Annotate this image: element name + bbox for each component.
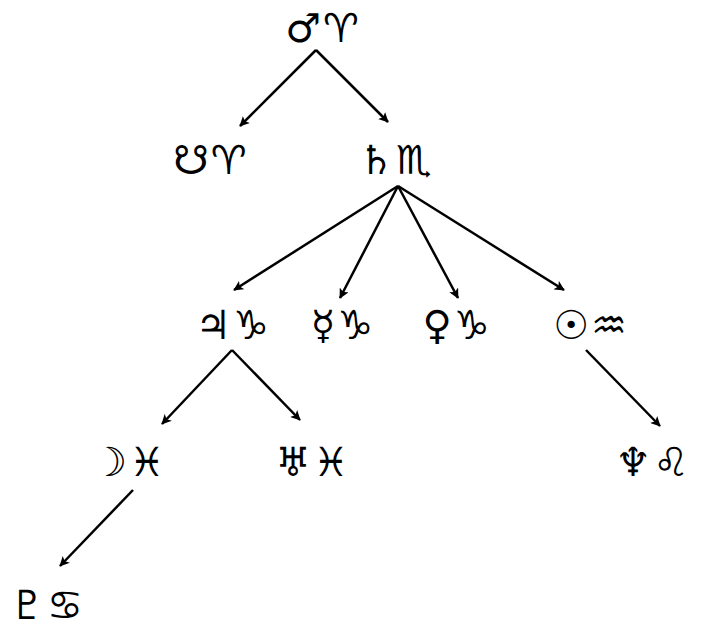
aries-icon: ♈︎ bbox=[323, 8, 359, 48]
tree-node-saturn-scorpio: ♄︎ ♏︎ bbox=[358, 140, 432, 180]
tree-node-node-aries: ☋︎ ♈︎ bbox=[173, 140, 246, 180]
aquarius-icon: ♒︎ bbox=[591, 305, 627, 345]
tree-node-moon-pisces: ☽︎ ♓︎ bbox=[91, 442, 165, 482]
pluto-icon: ♇︎ bbox=[9, 585, 45, 625]
venus-icon: ♀︎ bbox=[422, 305, 451, 345]
neptune-icon: ♆︎ bbox=[615, 442, 651, 482]
arrow-saturn-scorpio-to-sun-aquarius bbox=[398, 186, 564, 290]
moon-icon: ☽︎ bbox=[91, 442, 127, 482]
saturn-icon: ♄︎ bbox=[358, 140, 394, 180]
arrow-saturn-scorpio-to-mercury-capricorn bbox=[340, 186, 398, 298]
capricorn-icon: ♑︎ bbox=[454, 305, 490, 345]
tree-node-neptune-leo: ♆︎ ♌︎ bbox=[615, 442, 689, 482]
mars-icon: ♂︎ bbox=[285, 8, 321, 48]
arrow-sun-aquarius-to-neptune-leo bbox=[586, 350, 660, 426]
tree-node-venus-capricorn: ♀︎ ♑︎ bbox=[422, 305, 489, 345]
pisces-icon: ♓︎ bbox=[313, 442, 349, 482]
sun-icon: ☉︎ bbox=[553, 305, 589, 345]
aries-icon: ♈︎ bbox=[211, 140, 247, 180]
pisces-icon: ♓︎ bbox=[129, 442, 165, 482]
tree-node-jupiter-capricorn: ♃︎ ♑︎ bbox=[195, 305, 269, 345]
tree-node-pluto-cancer: ♇︎ ♋︎ bbox=[9, 585, 83, 625]
arrow-jupiter-capricorn-to-uranus-pisces bbox=[232, 350, 300, 420]
scorpio-icon: ♏︎ bbox=[396, 140, 432, 180]
arrow-mars-aries-to-saturn-scorpio bbox=[316, 50, 388, 122]
capricorn-icon: ♑︎ bbox=[337, 305, 373, 345]
arrow-moon-pisces-to-pluto-cancer bbox=[60, 490, 133, 566]
arrow-jupiter-capricorn-to-moon-pisces bbox=[162, 350, 232, 424]
tree-node-mars-aries: ♂︎ ♈︎ bbox=[285, 8, 359, 48]
south-node-icon: ☋︎ bbox=[173, 140, 209, 180]
tree-node-uranus-pisces: ♅︎ ♓︎ bbox=[275, 442, 349, 482]
arrow-saturn-scorpio-to-venus-capricorn bbox=[398, 186, 458, 298]
arrow-mars-aries-to-node-aries bbox=[240, 50, 316, 126]
tree-node-sun-aquarius: ☉︎ ♒︎ bbox=[553, 305, 627, 345]
leo-icon: ♌︎ bbox=[653, 442, 689, 482]
cancer-icon: ♋︎ bbox=[47, 585, 83, 625]
tree-node-mercury-capricorn: ☿︎ ♑︎ bbox=[311, 305, 373, 345]
jupiter-icon: ♃︎ bbox=[195, 305, 231, 345]
mercury-icon: ☿︎ bbox=[311, 305, 336, 345]
arrow-saturn-scorpio-to-jupiter-capricorn bbox=[234, 186, 398, 290]
uranus-icon: ♅︎ bbox=[275, 442, 311, 482]
capricorn-icon: ♑︎ bbox=[233, 305, 269, 345]
